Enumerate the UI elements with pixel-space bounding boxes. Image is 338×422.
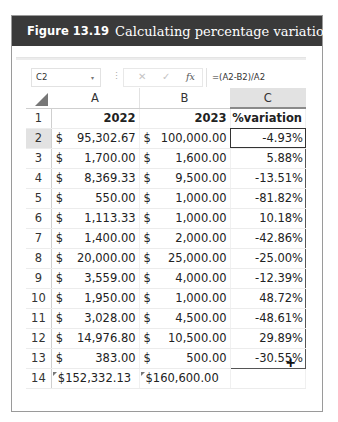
currency-symbol: $ [56,311,63,325]
cell-a[interactable]: $383.00 [51,348,139,368]
table-row: 7 $1,400.00 $2,000.00 -42.86% [26,228,306,248]
cell-b[interactable]: $1,600.00 [139,148,230,168]
cell-b[interactable]: $1,000.00 [139,208,230,228]
cell-b[interactable]: $9,500.00 [139,168,230,188]
cell-a[interactable]: $14,976.80 [51,328,139,348]
row-header[interactable]: 2 [26,128,51,148]
cell-a[interactable]: $1,113.33 [51,208,139,228]
cell-value: 8,369.33 [84,171,135,185]
cell-value: 100,000.00 [161,131,227,145]
cell-b[interactable]: $2,000.00 [139,228,230,248]
cell-a1[interactable]: 2022 [51,108,139,128]
column-header-b[interactable]: B [139,88,230,108]
cell-c[interactable]: -12.39% [230,268,305,288]
formula-actions: ✕ ✓ fx [123,68,203,87]
cancel-icon[interactable]: ✕ [138,71,146,82]
row-header[interactable]: 8 [26,248,51,268]
enter-icon[interactable]: ✓ [162,71,170,82]
row-header[interactable]: 11 [26,308,51,328]
cell-b[interactable]: $4,000.00 [139,268,230,288]
cell-a[interactable]: $3,028.00 [51,308,139,328]
figure-label: Figure 13.19 [27,24,109,38]
row-header[interactable]: 1 [26,108,51,128]
currency-symbol: $ [56,291,63,305]
cell-b[interactable]: $25,000.00 [139,248,230,268]
cell-b[interactable]: $4,500.00 [139,308,230,328]
row-header[interactable]: 3 [26,148,51,168]
cell-value: 1,600.00 [175,151,226,165]
row-header[interactable]: 12 [26,328,51,348]
cell-b1[interactable]: 2023 [139,108,230,128]
cell-value: 500.00 [186,351,226,365]
column-header-c[interactable]: C [230,88,305,108]
currency-symbol: $ [56,271,63,285]
cell-c[interactable]: -81.82% [230,188,305,208]
row-header[interactable]: 7 [26,228,51,248]
cell-c[interactable]: -13.51% [230,168,305,188]
row-header[interactable]: 13 [26,348,51,368]
table-row: 12 $14,976.80 $10,500.00 29.89% [26,328,306,348]
active-cell-c2[interactable]: -4.93% [230,128,305,148]
cell-c[interactable]: 48.72% [230,288,305,308]
cell-value: 383.00 [95,351,135,365]
cell-a[interactable]: $8,369.33 [51,168,139,188]
currency-symbol: $ [56,231,63,245]
drag-handle-icon[interactable]: ⋮ [112,71,121,81]
currency-symbol: $ [56,171,63,185]
cell-c[interactable]: -25.00% [230,248,305,268]
cell-value: $152,332.13 [58,371,131,385]
currency-symbol: $ [144,271,151,285]
cell-a[interactable]: $20,000.00 [51,248,139,268]
cell-a[interactable]: $1,400.00 [51,228,139,248]
error-indicator-icon[interactable] [141,372,145,376]
error-indicator-icon[interactable] [53,372,57,376]
cell-value: 1,000.00 [175,291,226,305]
name-box[interactable]: C2 ▾ [31,68,101,87]
cell-value: 1,000.00 [175,211,226,225]
formula-input[interactable]: =(A2-B2)/A2 [206,68,312,87]
cell-c[interactable]: -48.61% [230,308,305,328]
cell-a14[interactable]: $152,332.13 [51,368,139,388]
cell-b[interactable]: $10,500.00 [139,328,230,348]
column-header-a[interactable]: A [51,88,139,108]
currency-symbol: $ [56,131,63,145]
cell-a[interactable]: $3,559.00 [51,268,139,288]
cell-a[interactable]: $95,302.67 [51,128,139,148]
cell-b[interactable]: $1,000.00 [139,288,230,308]
cell-a[interactable]: $1,950.00 [51,288,139,308]
cell-c[interactable]: 29.89% [230,328,305,348]
cell-grid: A B C 1 2022 2023 %variation 2 $95,302.6… [26,88,306,389]
table-row: 6 $1,113.33 $1,000.00 10.18% [26,208,306,228]
currency-symbol: $ [144,231,151,245]
cell-a[interactable]: $550.00 [51,188,139,208]
cell-c1[interactable]: %variation [230,108,305,128]
row-header[interactable]: 4 [26,168,51,188]
cell-value: 2,000.00 [175,231,226,245]
figure-title: Calculating percentage variations [115,24,338,39]
cell-value: 14,976.80 [77,331,136,345]
row-header[interactable]: 9 [26,268,51,288]
fill-handle-cursor-icon[interactable]: + [286,354,295,372]
table-row: 13 $383.00 $500.00 -30.55% [26,348,306,368]
cell-b14[interactable]: $160,600.00 [139,368,230,388]
cell-b[interactable]: $1,000.00 [139,188,230,208]
row-header[interactable]: 5 [26,188,51,208]
chevron-down-icon[interactable]: ▾ [91,69,94,86]
currency-symbol: $ [144,131,151,145]
row-header[interactable]: 14 [26,368,51,388]
currency-symbol: $ [56,191,63,205]
cell-c[interactable]: 10.18% [230,208,305,228]
cell-b[interactable]: $500.00 [139,348,230,368]
select-all-button[interactable] [26,88,51,108]
cell-c[interactable]: 5.88% [230,148,305,168]
cell-value: 3,028.00 [84,311,135,325]
insert-function-icon[interactable]: fx [186,71,195,82]
cell-value: 1,113.33 [84,211,135,225]
cell-b[interactable]: $100,000.00 [139,128,230,148]
cell-a[interactable]: $1,700.00 [51,148,139,168]
cell-c[interactable]: -42.86% [230,228,305,248]
row-header[interactable]: 6 [26,208,51,228]
currency-symbol: $ [144,291,151,305]
table-row: 1 2022 2023 %variation [26,108,306,128]
row-header[interactable]: 10 [26,288,51,308]
